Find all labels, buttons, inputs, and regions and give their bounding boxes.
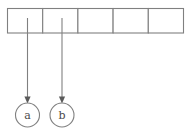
pointer-b-arrowhead [59,97,65,104]
array-cell-3[interactable] [113,9,148,34]
array-row [8,9,184,34]
array-cell-4[interactable] [148,9,183,34]
diagram-canvas: a b [0,0,194,134]
pointer-a-arrowhead [24,97,30,104]
diagram-svg: a b [0,0,194,134]
array-cell-0[interactable] [8,9,43,34]
pointer-b-label: b [58,109,65,122]
array-cell-1[interactable] [43,9,78,34]
pointer-a-label: a [24,109,31,122]
array-cell-2[interactable] [78,9,113,34]
pointer-a: a [16,18,40,127]
pointer-b: b [50,18,74,127]
